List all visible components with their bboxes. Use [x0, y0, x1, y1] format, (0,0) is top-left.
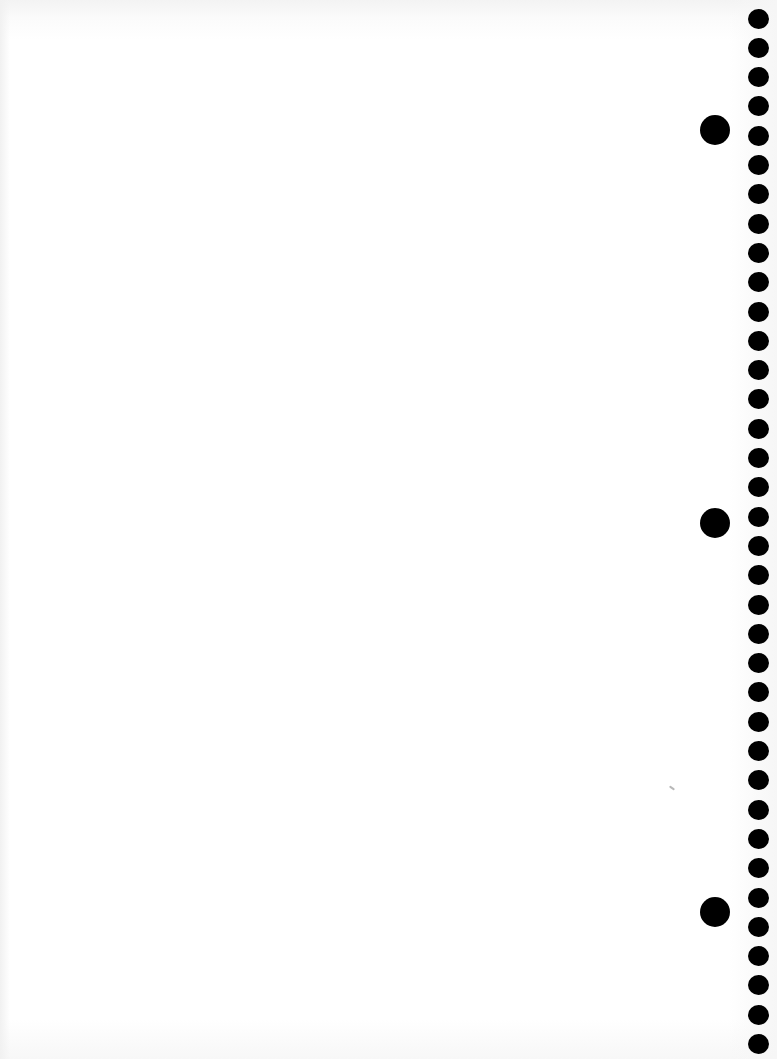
- spiral-hole: [748, 448, 769, 468]
- spiral-hole: [748, 243, 769, 263]
- spiral-hole: [748, 624, 769, 644]
- spiral-hole: [748, 67, 769, 87]
- spiral-hole: [748, 975, 769, 995]
- spiral-hole: [748, 331, 769, 351]
- spiral-hole: [748, 858, 769, 878]
- spiral-hole: [748, 536, 769, 556]
- spiral-hole: [748, 712, 769, 732]
- spiral-hole: [748, 507, 769, 527]
- spiral-hole: [748, 389, 769, 409]
- spiral-hole: [748, 917, 769, 937]
- spiral-hole: [748, 653, 769, 673]
- spiral-hole: [748, 126, 769, 146]
- spiral-hole: [748, 96, 769, 116]
- spiral-hole: [748, 360, 769, 380]
- spiral-hole: [748, 888, 769, 908]
- spiral-hole: [748, 946, 769, 966]
- spiral-hole: [748, 477, 769, 497]
- spiral-hole: [748, 302, 769, 322]
- binder-hole: [700, 897, 730, 927]
- spiral-hole: [748, 682, 769, 702]
- spiral-hole: [748, 38, 769, 58]
- spiral-hole: [748, 1005, 769, 1025]
- spiral-hole: [748, 565, 769, 585]
- spiral-hole: [748, 829, 769, 849]
- spiral-hole: [748, 9, 769, 29]
- spiral-hole: [748, 214, 769, 234]
- spiral-hole: [748, 184, 769, 204]
- binder-hole: [700, 115, 730, 145]
- spiral-hole: [748, 595, 769, 615]
- spiral-hole: [748, 741, 769, 761]
- spiral-hole: [748, 770, 769, 790]
- spiral-hole: [748, 800, 769, 820]
- spiral-hole: [748, 419, 769, 439]
- binder-hole: [700, 508, 730, 538]
- spiral-hole: [748, 272, 769, 292]
- notebook-page: [0, 0, 777, 1059]
- spiral-hole: [748, 155, 769, 175]
- spiral-hole: [748, 1034, 769, 1054]
- spiral-binding-holes: [0, 0, 777, 1059]
